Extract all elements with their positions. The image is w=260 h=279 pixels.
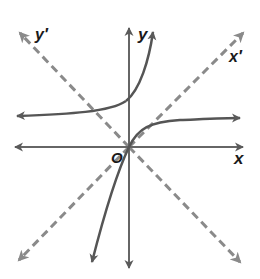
coordinate-diagram: y x x′ y′ O — [0, 0, 260, 279]
y-prime-label: y′ — [34, 26, 49, 43]
x-axis-label: x — [233, 149, 245, 168]
x-prime-label: x′ — [228, 48, 243, 65]
y-axis-label: y — [137, 25, 149, 44]
upper-curve — [17, 32, 153, 116]
origin-curve — [92, 118, 240, 262]
origin-label: O — [111, 149, 123, 166]
